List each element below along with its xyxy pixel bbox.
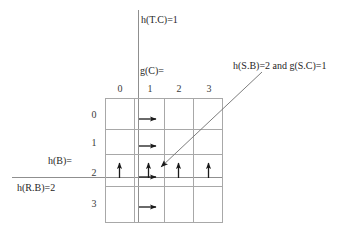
column-header-2: 2 xyxy=(169,84,189,94)
column-header-0: 0 xyxy=(110,84,130,94)
column-header-3: 3 xyxy=(199,84,219,94)
label-h-t-c: h(T.C)=1 xyxy=(141,15,178,25)
label-annotation-hsb-gsc: h(S.B)=2 and g(S.C)=1 xyxy=(233,61,327,71)
row-header-2: 2 xyxy=(88,168,100,178)
diagram-vector-layer xyxy=(0,0,358,234)
grid-lines xyxy=(106,99,223,223)
label-g-c: g(C)= xyxy=(140,66,164,76)
row-header-3: 3 xyxy=(88,199,100,209)
label-h-r-b: h(R.B)=2 xyxy=(17,183,55,193)
diagram-canvas: h(T.C)=1 g(C)= h(S.B)=2 and g(S.C)=1 h(B… xyxy=(0,0,358,234)
label-h-b: h(B)= xyxy=(48,156,72,166)
row-header-0: 0 xyxy=(88,110,100,120)
row-header-1: 1 xyxy=(88,138,100,148)
column-header-1: 1 xyxy=(140,84,160,94)
